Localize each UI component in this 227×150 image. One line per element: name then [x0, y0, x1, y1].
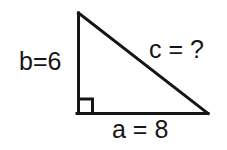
triangle-hypotenuse-line	[79, 13, 209, 114]
diagram-canvas: b=6 c = ? a = 8	[0, 0, 227, 150]
label-leg-b: b=6	[19, 49, 61, 74]
right-angle-marker-icon	[79, 99, 93, 114]
label-leg-a: a = 8	[112, 117, 168, 142]
label-hypotenuse-c: c = ?	[149, 37, 204, 62]
